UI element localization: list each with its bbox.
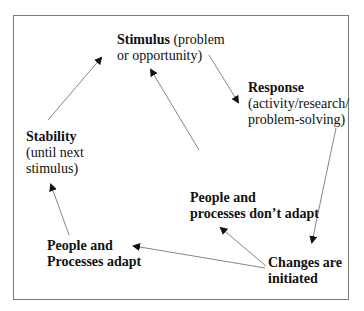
arrow-response-to-changes xyxy=(312,128,336,242)
dont-adapt-line2: processes don’t adapt xyxy=(190,206,319,222)
node-changes: Changes are initiated xyxy=(268,255,342,287)
adapt-line1: People and xyxy=(47,238,141,254)
changes-line1: Changes are xyxy=(268,255,342,271)
stability-desc-1: (until next xyxy=(26,145,84,161)
response-desc-2: problem-solving) xyxy=(248,112,349,128)
arrow-stability-to-stimulus xyxy=(48,58,101,120)
node-response: Response (activity/research/ problem-sol… xyxy=(248,80,349,128)
node-stability: Stability (until next stimulus) xyxy=(26,129,84,177)
response-desc-1: (activity/research/ xyxy=(248,96,349,112)
arrow-changes-to-adapt xyxy=(134,246,265,268)
stimulus-label: Stimulus xyxy=(117,32,170,47)
arrow-changes-to-dont-adapt xyxy=(221,228,266,266)
stability-label: Stability xyxy=(26,129,77,144)
arrow-dont-adapt-to-stimulus xyxy=(151,70,199,150)
response-label: Response xyxy=(248,80,304,95)
node-adapt: People and Processes adapt xyxy=(47,238,141,270)
arrow-adapt-to-stability xyxy=(51,185,69,235)
stimulus-desc: (problem xyxy=(170,32,225,47)
dont-adapt-line1: People and xyxy=(190,190,319,206)
stimulus-desc-2: or opportunity) xyxy=(117,48,225,64)
node-dont-adapt: People and processes don’t adapt xyxy=(190,190,319,222)
changes-line2: initiated xyxy=(268,271,342,287)
adapt-line2: Processes adapt xyxy=(47,254,141,270)
node-stimulus: Stimulus (problem or opportunity) xyxy=(117,32,225,64)
stability-desc-2: stimulus) xyxy=(26,161,84,177)
